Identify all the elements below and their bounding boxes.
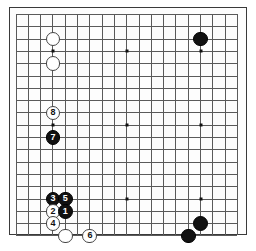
go-board-diagram: 87352146 xyxy=(0,0,256,251)
goban-frame[interactable] xyxy=(9,7,247,235)
grid-line-horizontal xyxy=(16,235,237,236)
